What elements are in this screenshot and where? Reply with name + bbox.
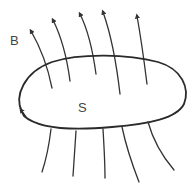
flux-diagram-canvas: [0, 0, 194, 188]
field-line-8: [103, 129, 105, 178]
field-line-7: [73, 131, 76, 176]
field-label: B: [10, 34, 19, 47]
field-lines-lower: [42, 122, 174, 182]
field-line-3: [80, 14, 96, 74]
surface-loop: [19, 56, 186, 129]
field-line-1: [31, 31, 52, 88]
field-line-4: [103, 12, 120, 94]
field-line-2: [53, 20, 70, 81]
field-line-9: [122, 127, 139, 182]
field-line-5: [137, 16, 147, 84]
field-lines-upper: [31, 12, 147, 94]
field-line-10: [148, 122, 174, 170]
surface-label: S: [78, 101, 87, 114]
field-line-6: [42, 129, 51, 172]
